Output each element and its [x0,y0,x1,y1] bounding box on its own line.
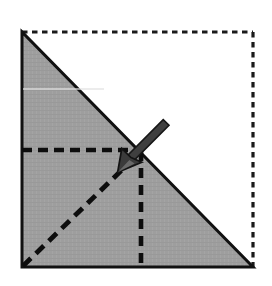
origami-fold-diagram [0,0,272,286]
figure-svg [0,0,272,286]
